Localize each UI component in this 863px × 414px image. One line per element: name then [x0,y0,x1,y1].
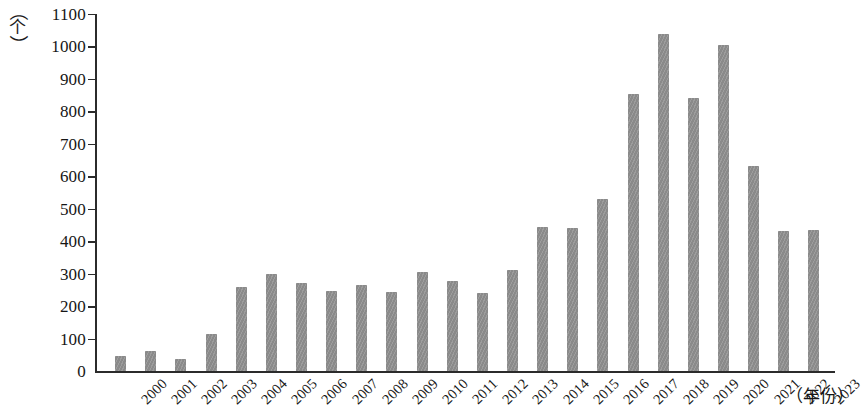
bar [236,287,247,371]
bar-series [95,14,835,371]
x-axis-tick-label: 2008 [379,376,410,407]
y-axis-tick-mark [88,79,95,80]
bar [447,281,458,371]
bar [326,291,337,371]
bar [567,228,578,372]
y-axis-tick-mark [88,241,95,242]
bar [507,270,518,371]
x-axis-tick-label: 2015 [590,376,621,407]
bar [778,231,789,371]
bar [356,285,367,371]
y-axis-tick-label: 500 [60,200,86,217]
y-axis-tick-label: 1000 [51,38,86,55]
x-axis-tick-label: 2016 [621,376,652,407]
bar [206,334,217,371]
x-axis-tick-label: 2000 [138,376,169,407]
bar [537,227,548,371]
bar [266,274,277,371]
x-axis-tick-label: 2001 [168,376,199,407]
x-axis-line [95,371,835,373]
bar [748,166,759,371]
y-unit-paren-close: ） [12,35,23,54]
x-axis-tick-label: 2002 [199,376,230,407]
bar [628,94,639,371]
x-axis-tick-label: 2010 [440,376,471,407]
y-axis-tick-label: 400 [60,233,86,250]
x-axis-tick-label: 2017 [651,376,682,407]
bar [658,34,669,371]
y-axis-tick-label: 600 [60,168,86,185]
y-unit-paren-open: （ [12,2,23,21]
bar [597,199,608,371]
x-axis-tick-label: 2011 [470,376,501,407]
y-axis-unit-label: （ 个 ） [4,6,30,72]
x-axis-tick-label: 2004 [259,376,290,407]
x-axis-tick-label: 2007 [349,376,380,407]
bar [296,283,307,371]
x-axis-title: （年份） [786,388,854,405]
x-axis-tick-label: 2003 [229,376,260,407]
bar [808,230,819,372]
y-axis-tick-label: 1100 [52,6,86,23]
bar [688,98,699,371]
y-axis-tick-mark [88,46,95,47]
bar [477,293,488,372]
x-axis-tick-label: 2012 [500,376,531,407]
y-axis-tick-label: 100 [60,330,86,347]
y-axis-tick-label: 700 [60,135,86,152]
x-axis-tick-label: 2018 [681,376,712,407]
plot-area: 010020030040050060070080090010001100 [95,14,835,373]
bar [175,359,186,371]
y-axis-tick-label: 0 [77,363,86,380]
y-axis-tick-mark [88,176,95,177]
bar [386,292,397,371]
x-axis-labels: 2000200120022003200420052006200720082009… [95,376,835,414]
x-axis-tick-label: 2014 [560,376,591,407]
bar [417,272,428,371]
x-axis-tick-label: 2006 [319,376,350,407]
bar [115,356,126,372]
y-axis-tick-label: 800 [60,103,86,120]
y-axis-tick-label: 200 [60,298,86,315]
bar [718,45,729,372]
y-axis-tick-mark [88,144,95,145]
x-axis-tick-label: 2019 [711,376,742,407]
y-axis-tick-label: 900 [60,70,86,87]
x-axis-tick-label: 2009 [410,376,441,407]
y-axis-tick-mark [88,111,95,112]
y-axis-tick-mark [88,274,95,275]
y-axis-tick-mark [88,14,95,15]
y-axis-tick-mark [88,306,95,307]
y-axis-tick-label: 300 [60,265,86,282]
y-axis-tick-mark [88,339,95,340]
x-axis-tick-label: 2005 [289,376,320,407]
bar [145,351,156,371]
y-axis-tick-mark [88,209,95,210]
x-axis-tick-label: 2013 [530,376,561,407]
x-axis-tick-label: 2020 [741,376,772,407]
